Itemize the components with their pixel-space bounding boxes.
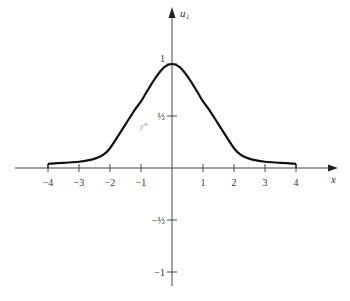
x-tick-label: 1 <box>201 177 206 188</box>
y-axis-label: u₁ <box>180 7 190 19</box>
y-axis-arrow-icon <box>169 7 176 18</box>
x-tick-label: −3 <box>74 177 85 188</box>
plot-area: −4−3−2−11234 1½−½−1 x u₁ y* <box>0 0 350 301</box>
chart: −4−3−2−11234 1½−½−1 x u₁ y* <box>0 0 350 301</box>
x-tick-label: −2 <box>105 177 116 188</box>
y-tick-label: −1 <box>154 267 165 278</box>
x-tick-label: −1 <box>136 177 147 188</box>
y-ticks: 1½−½−1 <box>152 53 177 278</box>
x-tick-label: 3 <box>263 177 268 188</box>
x-tick-label: −4 <box>43 177 54 188</box>
x-axis-arrow-icon <box>328 165 338 172</box>
annotation-label: y* <box>139 122 148 131</box>
y-tick-label: 1 <box>160 53 165 64</box>
x-tick-label: 2 <box>232 177 237 188</box>
y-tick-label: ½ <box>158 111 166 122</box>
y-tick-label: −½ <box>152 215 166 226</box>
x-axis-label: x <box>330 173 336 185</box>
x-tick-label: 4 <box>294 177 299 188</box>
